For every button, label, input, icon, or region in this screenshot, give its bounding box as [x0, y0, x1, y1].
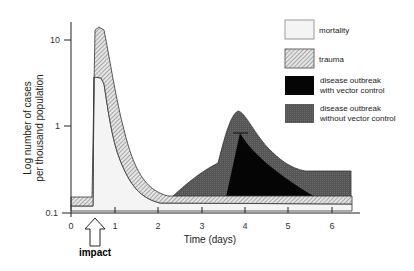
impact-label: impact [79, 247, 112, 258]
x-tick-6: 6 [329, 221, 334, 231]
y-tick-0.1: 0.1 [45, 208, 58, 218]
y-axis-label-line2: per thousand population [34, 74, 45, 181]
x-axis-label: Time (days) [184, 234, 236, 245]
legend-label-mortality: mortality [319, 26, 349, 35]
x-tick-2: 2 [155, 221, 160, 231]
legend-label-trauma: trauma [319, 55, 344, 64]
legend-swatch-without-vector-control [285, 104, 314, 123]
y-axis-label-line1: Log number of cases [22, 81, 33, 174]
chart: 10 1 0.1 0 1 2 3 4 5 6 Time (days) Log n… [0, 0, 414, 271]
x-tick-0: 0 [68, 221, 73, 231]
x-tick-4: 4 [242, 221, 247, 231]
x-tick-1: 1 [112, 221, 117, 231]
legend-label-with-vc-2: with vector control [319, 86, 385, 95]
legend-swatch-with-vector-control [285, 76, 314, 95]
x-tick-5: 5 [285, 221, 290, 231]
legend-label-without-vc-1: disease outbreak [320, 104, 382, 113]
legend-swatch-trauma [285, 49, 314, 68]
legend-label-without-vc-2: without vector control [319, 114, 396, 123]
x-tick-3: 3 [199, 221, 204, 231]
legend-swatch-mortality [285, 20, 314, 39]
impact-arrow-icon [85, 218, 105, 246]
y-tick-10: 10 [50, 35, 60, 45]
y-tick-1: 1 [55, 121, 60, 131]
legend-label-with-vc-1: disease outbreak [320, 76, 382, 85]
legend: mortality trauma disease outbreak with v… [285, 20, 396, 123]
